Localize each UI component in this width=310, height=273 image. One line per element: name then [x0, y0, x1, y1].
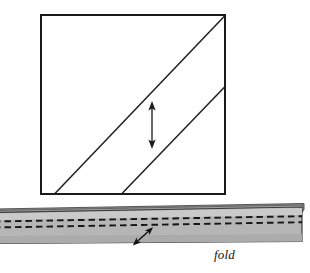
diagram-svg: [0, 0, 310, 273]
diagram-canvas: fold: [0, 0, 310, 273]
fold-label: fold: [214, 247, 235, 263]
fabric-square-outline: [41, 15, 225, 194]
folded-strip-group: [0, 204, 304, 246]
fabric-square-group: [41, 15, 225, 194]
